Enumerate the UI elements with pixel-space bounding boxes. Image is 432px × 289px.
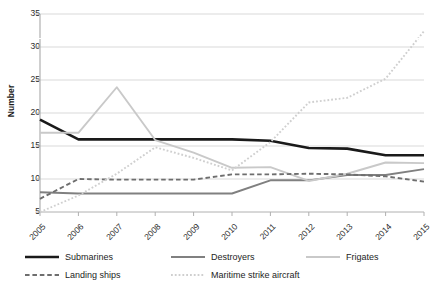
legend-item-maritime-strike-aircraft[interactable]: Maritime strike aircraft — [170, 270, 300, 280]
legend-label: Frigates — [346, 253, 379, 262]
legend-swatch-line-icon — [170, 252, 206, 262]
x-tick-label: 2006 — [58, 221, 86, 249]
x-tick-label: 2011 — [250, 221, 278, 249]
legend-swatch-line-icon — [24, 270, 60, 280]
legend-swatch-line-icon — [305, 252, 341, 262]
x-tick-label: 2012 — [288, 221, 316, 249]
x-tick-label: 2005 — [19, 221, 47, 249]
legend-swatch-line-icon — [170, 270, 206, 280]
x-tick-label: 2007 — [96, 221, 124, 249]
legend-item-frigates[interactable]: Frigates — [305, 252, 379, 262]
legend-label: Landing ships — [65, 271, 121, 280]
legend-label: Maritime strike aircraft — [211, 271, 300, 280]
legend-item-landing-ships[interactable]: Landing ships — [24, 270, 121, 280]
x-tick-label: 2014 — [365, 221, 393, 249]
x-tick-label: 2015 — [403, 221, 431, 249]
legend-divider — [0, 38, 428, 39]
x-tick-label: 2009 — [173, 221, 201, 249]
x-tick-label: 2008 — [134, 221, 162, 249]
legend-swatch-line-icon — [24, 252, 60, 262]
legend-label: Destroyers — [211, 253, 255, 262]
legend-item-destroyers[interactable]: Destroyers — [170, 252, 255, 262]
chart-legend: SubmarinesDestroyersFrigatesLanding ship… — [0, 250, 428, 289]
x-tick-label: 2013 — [326, 221, 354, 249]
legend-item-submarines[interactable]: Submarines — [24, 252, 113, 262]
legend-label: Submarines — [65, 253, 113, 262]
x-tick-label: 2010 — [211, 221, 239, 249]
